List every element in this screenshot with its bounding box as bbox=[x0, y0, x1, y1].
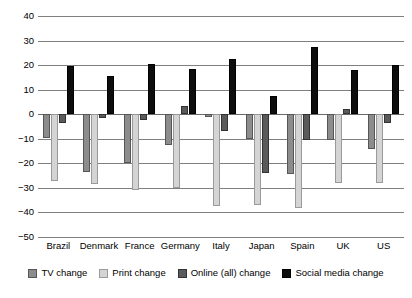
x-axis-label-brazil: Brazil bbox=[46, 240, 70, 252]
bar-print-italy bbox=[213, 114, 220, 206]
bar-tv-denmark bbox=[83, 114, 90, 172]
y-axis-tick-label: 30 bbox=[0, 36, 34, 46]
bar-tv-italy bbox=[205, 114, 212, 116]
legend-swatch-icon-print bbox=[99, 269, 108, 278]
bar-print-us bbox=[376, 114, 383, 183]
legend-item-print: Print change bbox=[99, 268, 165, 278]
bar-group bbox=[323, 16, 364, 237]
legend-item-online: Online (all) change bbox=[178, 268, 271, 278]
bar-group bbox=[201, 16, 242, 237]
bar-chart: 403020100−10−20−30−40−50 BrazilDenmarkFr… bbox=[0, 0, 412, 298]
legend-item-tv: TV change bbox=[28, 268, 87, 278]
bar-print-uk bbox=[335, 114, 342, 183]
bar-online-us bbox=[384, 114, 391, 123]
bar-print-germany bbox=[173, 114, 180, 188]
x-axis-label-uk: UK bbox=[336, 240, 349, 252]
bar-tv-us bbox=[368, 114, 375, 148]
bar-online-france bbox=[140, 114, 147, 120]
bar-online-japan bbox=[262, 114, 269, 173]
bar-social-japan bbox=[270, 96, 277, 114]
bar-tv-brazil bbox=[43, 114, 50, 137]
x-axis-labels: BrazilDenmarkFranceGermanyItalyJapanSpai… bbox=[38, 240, 404, 256]
bar-online-brazil bbox=[59, 114, 66, 123]
bar-group bbox=[363, 16, 404, 237]
y-axis-tick-label: −20 bbox=[0, 159, 34, 169]
bar-print-spain bbox=[295, 114, 302, 207]
bar-social-italy bbox=[229, 59, 236, 114]
legend-label-tv: TV change bbox=[41, 268, 87, 278]
bar-social-us bbox=[392, 65, 399, 114]
bar-social-spain bbox=[311, 47, 318, 115]
bar-group bbox=[282, 16, 323, 237]
x-axis-label-denmark: Denmark bbox=[80, 240, 119, 252]
plot-area: 403020100−10−20−30−40−50 bbox=[38, 16, 404, 237]
bar-social-denmark bbox=[107, 76, 114, 114]
legend-label-social: Social media change bbox=[295, 268, 383, 278]
x-axis-label-germany: Germany bbox=[161, 240, 200, 252]
y-axis-tick-label: 20 bbox=[0, 60, 34, 70]
chart-legend: TV changePrint changeOnline (all) change… bbox=[0, 268, 412, 278]
y-axis-tick-label: −40 bbox=[0, 208, 34, 218]
bar-online-spain bbox=[303, 114, 310, 140]
bar-print-france bbox=[132, 114, 139, 190]
y-axis-tick-label: 40 bbox=[0, 11, 34, 21]
bar-online-uk bbox=[343, 109, 350, 114]
bar-print-denmark bbox=[91, 114, 98, 184]
bar-tv-germany bbox=[165, 114, 172, 145]
legend-swatch-icon-online bbox=[178, 269, 187, 278]
x-axis-label-italy: Italy bbox=[212, 240, 229, 252]
bar-group bbox=[119, 16, 160, 237]
legend-label-online: Online (all) change bbox=[191, 268, 271, 278]
bar-group bbox=[160, 16, 201, 237]
bar-tv-spain bbox=[287, 114, 294, 174]
y-axis-tick-label: −50 bbox=[0, 232, 34, 242]
y-axis-tick-label: 0 bbox=[0, 109, 34, 119]
bar-social-france bbox=[148, 64, 155, 114]
bar-online-italy bbox=[221, 114, 228, 131]
legend-swatch-icon-tv bbox=[28, 269, 37, 278]
bar-online-denmark bbox=[99, 114, 106, 118]
legend-swatch-icon-social bbox=[282, 269, 291, 278]
y-axis-tick-label: −30 bbox=[0, 183, 34, 193]
legend-label-print: Print change bbox=[112, 268, 165, 278]
bar-print-brazil bbox=[51, 114, 58, 180]
bar-tv-uk bbox=[327, 114, 334, 140]
y-axis-tick-label: −10 bbox=[0, 134, 34, 144]
legend-item-social: Social media change bbox=[282, 268, 383, 278]
gridline bbox=[38, 237, 404, 238]
x-axis-label-japan: Japan bbox=[249, 240, 275, 252]
bar-tv-japan bbox=[246, 114, 253, 139]
bar-tv-france bbox=[124, 114, 131, 163]
bar-group bbox=[79, 16, 120, 237]
bar-social-uk bbox=[351, 70, 358, 114]
bar-group bbox=[241, 16, 282, 237]
x-axis-label-us: US bbox=[377, 240, 390, 252]
bar-social-germany bbox=[189, 69, 196, 114]
bar-print-japan bbox=[254, 114, 261, 205]
bar-social-brazil bbox=[67, 66, 74, 114]
x-axis-label-spain: Spain bbox=[290, 240, 314, 252]
y-axis-tick-label: 10 bbox=[0, 85, 34, 95]
x-axis-label-france: France bbox=[125, 240, 155, 252]
bar-group bbox=[38, 16, 79, 237]
bar-online-germany bbox=[181, 106, 188, 115]
